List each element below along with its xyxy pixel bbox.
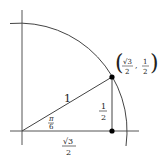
opposite-label-num: 1 xyxy=(101,102,106,111)
foot-point xyxy=(109,128,114,133)
adjacent-label-den: 2 xyxy=(66,148,71,157)
point-y-den: 2 xyxy=(143,68,147,76)
angle-label-num: π xyxy=(48,115,54,123)
point-x-num: √3 xyxy=(123,58,132,66)
point-close-paren: ) xyxy=(150,50,159,75)
point-x-den: 2 xyxy=(125,68,129,76)
point-separator: , xyxy=(135,61,138,70)
adjacent-label-num: √3 xyxy=(63,137,73,146)
opposite-label-den: 2 xyxy=(101,113,106,122)
unit-circle-diagram: 1 π 6 1 2 √3 2 ( √3 2 , 1 2 ) xyxy=(0,0,168,160)
hypotenuse-label: 1 xyxy=(64,92,71,105)
point-y-num: 1 xyxy=(143,58,147,66)
angle-label-den: 6 xyxy=(49,123,54,131)
point-on-circle xyxy=(109,74,114,79)
